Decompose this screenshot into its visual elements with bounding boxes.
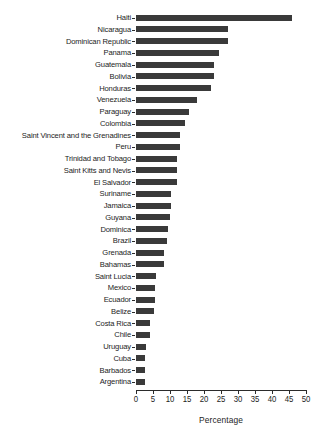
bar-row bbox=[136, 106, 306, 118]
category-label: Mexico bbox=[8, 282, 131, 294]
x-axis-tick bbox=[306, 390, 307, 394]
category-label: Saint Lucia bbox=[8, 271, 131, 283]
category-tick bbox=[132, 194, 135, 195]
category-tick bbox=[132, 265, 135, 266]
x-axis-title: Percentage bbox=[136, 415, 306, 425]
category-tick bbox=[132, 147, 135, 148]
x-axis-tick bbox=[170, 390, 171, 394]
category-label: Costa Rica bbox=[8, 318, 131, 330]
bar-row bbox=[136, 47, 306, 59]
category-tick bbox=[132, 335, 135, 336]
x-axis-tick bbox=[289, 390, 290, 394]
bar-row bbox=[136, 224, 306, 236]
category-label: Haiti bbox=[8, 12, 131, 24]
bar bbox=[136, 367, 145, 373]
category-tick bbox=[132, 359, 135, 360]
bar-row bbox=[136, 24, 306, 36]
bar bbox=[136, 250, 164, 256]
category-tick bbox=[132, 241, 135, 242]
category-tick bbox=[132, 65, 135, 66]
category-tick bbox=[132, 171, 135, 172]
category-tick bbox=[132, 347, 135, 348]
bar-row bbox=[136, 118, 306, 130]
bar bbox=[136, 26, 228, 32]
bar-row bbox=[136, 235, 306, 247]
category-label: Uruguay bbox=[8, 341, 131, 353]
bar-row bbox=[136, 306, 306, 318]
category-label: Paraguay bbox=[8, 106, 131, 118]
category-tick bbox=[132, 77, 135, 78]
bar bbox=[136, 261, 164, 267]
category-label: Trinidad and Tobago bbox=[8, 153, 131, 165]
bar-row bbox=[136, 188, 306, 200]
category-label: Guatemala bbox=[8, 59, 131, 71]
bar-row bbox=[136, 177, 306, 189]
x-axis-tick bbox=[187, 390, 188, 394]
bar-row bbox=[136, 212, 306, 224]
category-label: El Salvador bbox=[8, 177, 131, 189]
category-tick bbox=[132, 323, 135, 324]
bar bbox=[136, 191, 171, 197]
category-tick bbox=[132, 135, 135, 136]
bar-row bbox=[136, 329, 306, 341]
category-label: Bolivia bbox=[8, 71, 131, 83]
category-tick bbox=[132, 300, 135, 301]
bar-row bbox=[136, 94, 306, 106]
x-axis-tick bbox=[255, 390, 256, 394]
bar-row bbox=[136, 130, 306, 142]
category-tick bbox=[132, 229, 135, 230]
bar-chart: HaitiNicaraguaDominican RepublicPanamaGu… bbox=[0, 0, 317, 444]
bar bbox=[136, 50, 219, 56]
bar bbox=[136, 320, 150, 326]
bar bbox=[136, 167, 177, 173]
category-label: Dominica bbox=[8, 224, 131, 236]
bar-row bbox=[136, 365, 306, 377]
plot-area bbox=[136, 12, 306, 388]
bar bbox=[136, 73, 214, 79]
bar-row bbox=[136, 141, 306, 153]
category-tick bbox=[132, 112, 135, 113]
bar bbox=[136, 273, 156, 279]
category-label: Suriname bbox=[8, 188, 131, 200]
bar-row bbox=[136, 353, 306, 365]
category-tick bbox=[132, 182, 135, 183]
category-tick bbox=[132, 312, 135, 313]
bar-row bbox=[136, 259, 306, 271]
bar-row bbox=[136, 318, 306, 330]
bar-row bbox=[136, 12, 306, 24]
bar bbox=[136, 15, 292, 21]
bar bbox=[136, 132, 180, 138]
bar-row bbox=[136, 36, 306, 48]
category-label: Jamaica bbox=[8, 200, 131, 212]
bar-row bbox=[136, 153, 306, 165]
category-tick bbox=[132, 41, 135, 42]
category-label: Panama bbox=[8, 47, 131, 59]
category-label: Peru bbox=[8, 141, 131, 153]
bar-row bbox=[136, 83, 306, 95]
bar-row bbox=[136, 200, 306, 212]
category-label: Ecuador bbox=[8, 294, 131, 306]
category-label: Argentina bbox=[8, 376, 131, 388]
bar-row bbox=[136, 341, 306, 353]
category-tick bbox=[132, 253, 135, 254]
category-label: Grenada bbox=[8, 247, 131, 259]
category-label: Saint Vincent and the Grenadines bbox=[8, 130, 131, 142]
bar-row bbox=[136, 282, 306, 294]
bar bbox=[136, 355, 145, 361]
category-tick bbox=[132, 100, 135, 101]
category-label: Chile bbox=[8, 329, 131, 341]
x-axis-tick bbox=[238, 390, 239, 394]
category-tick bbox=[132, 88, 135, 89]
bar bbox=[136, 85, 211, 91]
category-tick bbox=[132, 276, 135, 277]
category-tick bbox=[132, 159, 135, 160]
category-tick bbox=[132, 382, 135, 383]
bar-row bbox=[136, 59, 306, 71]
category-tick bbox=[132, 370, 135, 371]
category-label: Colombia bbox=[8, 118, 131, 130]
category-tick bbox=[132, 206, 135, 207]
bar bbox=[136, 297, 155, 303]
bar-row bbox=[136, 271, 306, 283]
bar bbox=[136, 379, 145, 385]
bar-row bbox=[136, 294, 306, 306]
